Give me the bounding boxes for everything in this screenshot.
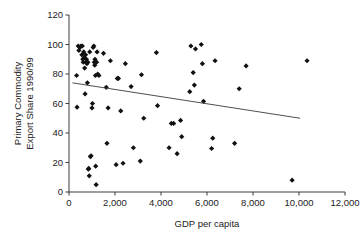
trend-line-layer [72, 83, 300, 118]
y-tick-label: 120 [47, 9, 63, 20]
scatter-plot-figure: 020406080100120 02,0004,0006,0008,00010,… [0, 0, 362, 244]
data-point [193, 46, 198, 51]
x-tick-label: 10,000 [284, 197, 313, 208]
data-point [210, 136, 215, 141]
data-point [94, 49, 99, 54]
data-point [290, 178, 295, 183]
y-tick-label: 0 [58, 186, 63, 197]
x-axis-title: GDP per capita [175, 218, 240, 229]
x-axis: 02,0004,0006,0008,00010,00012,000 [66, 192, 359, 208]
data-point [192, 82, 197, 87]
x-tick-label: 4,000 [149, 197, 173, 208]
data-point [232, 141, 237, 146]
data-point [237, 86, 242, 91]
data-point [154, 50, 159, 55]
data-point [138, 158, 143, 163]
x-tick-label: 12,000 [330, 197, 359, 208]
trend-line [72, 83, 300, 118]
data-point [141, 116, 146, 121]
data-point [104, 85, 109, 90]
data-point [178, 118, 183, 123]
data-point [108, 58, 113, 63]
y-axis: 020406080100120 [47, 9, 69, 197]
data-point [118, 108, 123, 113]
data-point [87, 49, 92, 54]
data-point [106, 105, 111, 110]
y-axis-title-line: Export Share 1990/99 [24, 57, 35, 149]
data-point [114, 162, 119, 167]
data-point [104, 141, 109, 146]
data-point [212, 58, 217, 63]
data-point [139, 72, 144, 77]
data-point [200, 61, 205, 66]
x-tick-label: 8,000 [241, 197, 265, 208]
x-tick-label: 6,000 [195, 197, 219, 208]
data-point [83, 91, 88, 96]
data-point [244, 63, 249, 68]
data-point [179, 134, 184, 139]
data-point [209, 146, 214, 151]
plot-canvas: 020406080100120 02,0004,0006,0008,00010,… [0, 0, 362, 244]
data-point [123, 61, 128, 66]
data-point [166, 145, 171, 150]
data-point [155, 103, 160, 108]
data-point [90, 101, 95, 106]
data-point [191, 70, 196, 75]
y-tick-label: 60 [52, 98, 63, 109]
data-point [175, 151, 180, 156]
data-point [89, 105, 94, 110]
x-tick-label: 0 [66, 197, 71, 208]
data-point [199, 42, 204, 47]
y-tick-label: 40 [52, 127, 63, 138]
y-tick-label: 80 [52, 68, 63, 79]
data-point [93, 164, 98, 169]
data-point [188, 43, 193, 48]
data-point [94, 182, 99, 187]
data-point [120, 161, 125, 166]
data-point [129, 84, 134, 89]
data-point [304, 58, 309, 63]
data-point [74, 105, 79, 110]
y-tick-label: 20 [52, 157, 63, 168]
y-tick-label: 100 [47, 39, 63, 50]
data-point [82, 66, 87, 71]
x-tick-label: 2,000 [103, 197, 127, 208]
y-axis-title-line: Primary Commodity [12, 62, 23, 146]
data-point [187, 89, 192, 94]
data-point [101, 51, 106, 56]
data-point [74, 73, 79, 78]
data-point [87, 173, 92, 178]
data-point [131, 145, 136, 150]
